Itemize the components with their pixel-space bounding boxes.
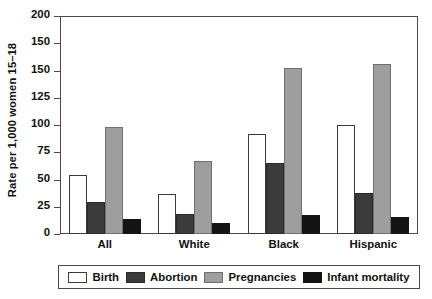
bar-infant-mortality-all [123,219,141,234]
bar-abortion-hispanic [355,193,373,234]
y-axis-title: Rate per 1,000 women 15–18 [0,0,24,240]
bar-pregnancies-black [284,68,302,234]
x-axis-label-all: All [60,238,150,250]
bar-infant-mortality-hispanic [391,217,409,234]
y-axis-tick-label: 50 [37,172,50,184]
legend-entry-pregnancies: Pregnancies [204,271,296,283]
legend-entry-infant-mortality: Infant mortality [303,271,409,283]
y-axis-tick-label: 0 [44,226,50,238]
y-axis-tick-mark [54,234,60,235]
legend-label: Pregnancies [228,271,296,283]
x-axis-label-hispanic: Hispanic [329,238,419,250]
y-axis-tick: 150 [0,71,60,72]
y-axis-tick-label: 25 [37,199,50,211]
bar-birth-all [69,175,87,234]
bar-pregnancies-hispanic [373,64,391,234]
bar-abortion-all [87,202,105,234]
legend-entry-birth: Birth [68,271,119,283]
y-axis-tick: 0 [0,234,60,235]
y-axis-tick: 75 [0,152,60,153]
y-axis-tick: 50 [0,180,60,181]
y-axis-tick-label: 125 [31,90,50,102]
bar-infant-mortality-white [212,223,230,234]
bar-abortion-black [266,163,284,234]
bar-pregnancies-white [194,161,212,234]
bar-chart: Rate per 1,000 women 15–18 2001501501251… [0,0,432,299]
legend-swatch-pregnancies [204,272,223,283]
legend-label: Birth [92,271,119,283]
legend-swatch-abortion [126,272,145,283]
legend-label: Abortion [150,271,197,283]
bar-birth-white [158,194,176,234]
y-axis-tick-label: 150 [31,35,50,47]
y-axis-tick: 125 [0,98,60,99]
x-axis-labels: AllWhiteBlackHispanic [60,238,418,256]
bars-layer [60,16,418,234]
bar-birth-hispanic [337,125,355,234]
y-axis-tick-label: 200 [31,8,50,20]
y-axis-tick: 200 [0,16,60,17]
x-axis-label-white: White [150,238,240,250]
y-axis-tick-label: 150 [31,63,50,75]
x-axis-label-black: Black [239,238,329,250]
bar-pregnancies-all [105,127,123,234]
legend-swatch-infant-mortality [303,272,322,283]
y-axis-tick: 25 [0,207,60,208]
y-axis-tick: 100 [0,125,60,126]
y-axis-tick-label: 75 [37,144,50,156]
y-axis-tick-label: 100 [31,117,50,129]
y-axis-tick: 150 [0,43,60,44]
y-axis-title-text: Rate per 1,000 women 15–18 [6,43,18,197]
legend-label: Infant mortality [327,271,409,283]
chart-legend: BirthAbortionPregnanciesInfant mortality [58,265,420,289]
legend-swatch-birth [68,272,87,283]
bar-abortion-white [176,214,194,234]
bar-infant-mortality-black [302,215,320,234]
bar-birth-black [248,134,266,234]
legend-entry-abortion: Abortion [126,271,197,283]
